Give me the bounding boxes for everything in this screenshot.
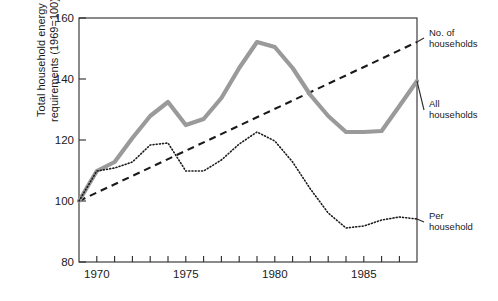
- x-tick-label-1975: 1975: [173, 268, 199, 280]
- legend-label-all-households-line1: All: [429, 98, 440, 109]
- y-tick-label-80: 80: [61, 256, 74, 268]
- chart-figure: Total household energyrequirements (1969…: [0, 0, 498, 301]
- series-line-per-household: [79, 132, 417, 228]
- x-tick-label-1985: 1985: [351, 268, 377, 280]
- x-tick-label-1970: 1970: [84, 268, 110, 280]
- legend-label-no-of-households-line2: households: [429, 38, 478, 49]
- y-tick-label-100: 100: [55, 195, 74, 207]
- x-axis-ticks: [97, 256, 400, 262]
- legend-label-per-household-line1: Per: [429, 210, 444, 221]
- y-tick-label-140: 140: [55, 73, 74, 85]
- series-line-no-of-households: [79, 42, 417, 201]
- plot-area: 160 140 120 100 80 1970 1975: [0, 0, 498, 301]
- legend-leader-lines: [417, 38, 424, 222]
- y-axis-ticks: [79, 18, 86, 262]
- legend-label-no-of-households-line1: No. of: [429, 27, 455, 38]
- x-tick-label-1980: 1980: [262, 268, 288, 280]
- legend-label-all-households-line2: households: [429, 109, 478, 120]
- y-tick-label-120: 120: [55, 134, 74, 146]
- y-tick-label-160: 160: [55, 12, 74, 24]
- legend-label-per-household-line2: household: [429, 221, 473, 232]
